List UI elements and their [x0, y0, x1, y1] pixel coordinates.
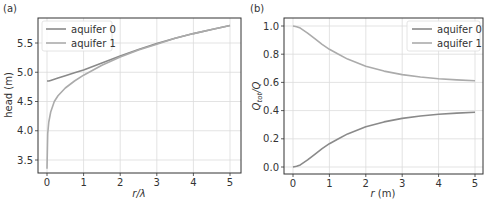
figure: (a) 0123453.54.04.55.05.5 r/λ head (m) a…: [0, 0, 490, 207]
y-tick-label: 4.0: [17, 125, 33, 136]
x-tick-label: 4: [190, 177, 196, 188]
panel-b-xlabel: r (m): [371, 188, 396, 199]
panel-a-head-chart: (a) 0123453.54.04.55.05.5 r/λ head (m) a…: [3, 3, 241, 199]
x-tick-label: 3: [154, 177, 160, 188]
x-tick-label: 4: [435, 178, 441, 189]
x-tick-label: 5: [227, 177, 233, 188]
panel-b-ylabel: Qtot/Q: [251, 81, 264, 110]
x-tick-label: 5: [472, 178, 478, 189]
y-tick-label: 1.0: [263, 21, 279, 32]
y-tick-label: 5.5: [17, 38, 33, 49]
x-tick-label: 1: [326, 178, 332, 189]
panel-a-ylabel: head (m): [3, 72, 14, 118]
panel-a-ticks: 0123453.54.04.55.05.5: [17, 38, 233, 189]
x-tick-label: 2: [117, 177, 123, 188]
y-tick-label: 0.8: [263, 49, 279, 60]
panel-b-flow-chart: (b) 0123450.00.20.40.60.81.0 r (m) Qtot/…: [250, 3, 483, 199]
y-tick-label: 0.2: [263, 133, 279, 144]
panel-a-xlabel: r/λ: [132, 188, 145, 199]
x-tick-label: 2: [363, 178, 369, 189]
panel-a-label: (a): [3, 3, 17, 14]
series-line-aquifer-0: [293, 112, 475, 167]
x-tick-label: 0: [44, 177, 50, 188]
legend-label-aquifer-1: aquifer 1: [437, 38, 482, 49]
y-tick-label: 3.5: [17, 155, 33, 166]
y-tick-label: 0.6: [263, 77, 279, 88]
x-tick-label: 0: [290, 178, 296, 189]
panel-a-legend: aquifer 0 aquifer 1: [42, 21, 116, 51]
x-tick-label: 3: [399, 178, 405, 189]
panel-b-label: (b): [250, 3, 264, 14]
y-tick-label: 5.0: [17, 67, 33, 78]
panel-b-legend: aquifer 0 aquifer 1: [407, 21, 482, 51]
legend-label-aquifer-0: aquifer 0: [71, 24, 116, 35]
legend-label-aquifer-0: aquifer 0: [437, 24, 482, 35]
y-tick-label: 0.4: [263, 105, 279, 116]
x-tick-label: 1: [80, 177, 86, 188]
y-tick-label: 4.5: [17, 96, 33, 107]
y-tick-label: 0.0: [263, 162, 279, 173]
legend-label-aquifer-1: aquifer 1: [71, 38, 116, 49]
